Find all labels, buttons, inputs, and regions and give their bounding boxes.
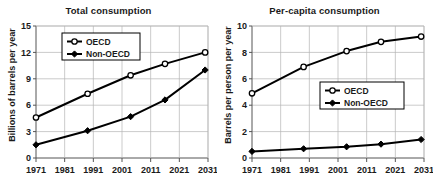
- legend-label-oecd: OECD: [86, 37, 111, 47]
- data-point-marker-oecd: [249, 91, 254, 96]
- data-point-marker-oecd: [128, 73, 133, 78]
- y-tick-label: 4: [242, 100, 247, 110]
- y-tick-label: 6: [242, 74, 247, 84]
- data-point-marker-non-oecd: [418, 136, 424, 142]
- legend: OECDNon-OECD: [62, 33, 140, 60]
- x-tick-label: 1981: [271, 165, 291, 175]
- y-tick-label: 12: [21, 48, 31, 58]
- legend-label-non-oecd: Non-OECD: [86, 49, 130, 59]
- x-tick-label: 2031: [414, 165, 433, 175]
- chart-panel-per-capita-consumption: Per-capita consumption Barrels per perso…: [216, 0, 433, 192]
- x-tick-label: 2021: [169, 165, 189, 175]
- data-point-marker-oecd: [301, 64, 306, 69]
- plot-area-per-capita-consumption: 02468101971198119912001201120212031OECDN…: [216, 0, 433, 192]
- y-tick-label: 3: [26, 127, 31, 137]
- y-tick-label: 2: [242, 127, 247, 137]
- legend-marker-oecd: [330, 88, 335, 93]
- series-line-oecd: [36, 52, 205, 117]
- legend: OECDNon-OECD: [320, 82, 404, 109]
- chart-panel-total-consumption: Total consumption Billions of barrels pe…: [0, 0, 217, 192]
- legend-label-non-oecd: Non-OECD: [344, 98, 388, 108]
- x-tick-label: 1981: [55, 165, 75, 175]
- y-tick-label: 6: [26, 100, 31, 110]
- x-tick-label: 1971: [242, 165, 262, 175]
- x-tick-label: 2011: [141, 165, 161, 175]
- data-point-marker-oecd: [378, 39, 383, 44]
- x-tick-label: 1991: [83, 165, 103, 175]
- data-point-marker-oecd: [33, 115, 38, 120]
- y-tick-label: 8: [242, 48, 247, 58]
- legend-label-oecd: OECD: [344, 86, 369, 96]
- data-point-marker-oecd: [85, 91, 90, 96]
- legend-marker-oecd: [72, 39, 77, 44]
- data-point-marker-non-oecd: [301, 146, 307, 152]
- y-tick-label: 15: [21, 21, 31, 31]
- y-tick-label: 0: [26, 153, 31, 163]
- data-point-marker-non-oecd: [33, 142, 39, 148]
- x-tick-label: 2001: [328, 165, 348, 175]
- data-point-marker-non-oecd: [128, 114, 134, 120]
- series-line-non-oecd: [252, 140, 421, 152]
- series-line-non-oecd: [36, 70, 205, 145]
- x-tick-label: 2011: [357, 165, 377, 175]
- data-point-marker-non-oecd: [85, 128, 91, 134]
- plot-area-total-consumption: 036912151971198119912001201120212031OECD…: [0, 0, 217, 192]
- data-point-marker-oecd: [344, 48, 349, 53]
- y-tick-label: 0: [242, 153, 247, 163]
- data-point-marker-oecd: [162, 61, 167, 66]
- data-point-marker-non-oecd: [378, 141, 384, 147]
- data-point-marker-non-oecd: [344, 144, 350, 150]
- x-tick-label: 1991: [299, 165, 319, 175]
- data-point-marker-oecd: [418, 34, 423, 39]
- data-point-marker-non-oecd: [249, 148, 255, 154]
- y-tick-label: 9: [26, 74, 31, 84]
- y-tick-label: 10: [237, 21, 247, 31]
- x-tick-label: 2031: [198, 165, 217, 175]
- data-point-marker-oecd: [202, 50, 207, 55]
- x-tick-label: 1971: [26, 165, 46, 175]
- x-tick-label: 2021: [385, 165, 405, 175]
- x-tick-label: 2001: [112, 165, 132, 175]
- figure-two-line-charts: Total consumption Billions of barrels pe…: [0, 0, 433, 192]
